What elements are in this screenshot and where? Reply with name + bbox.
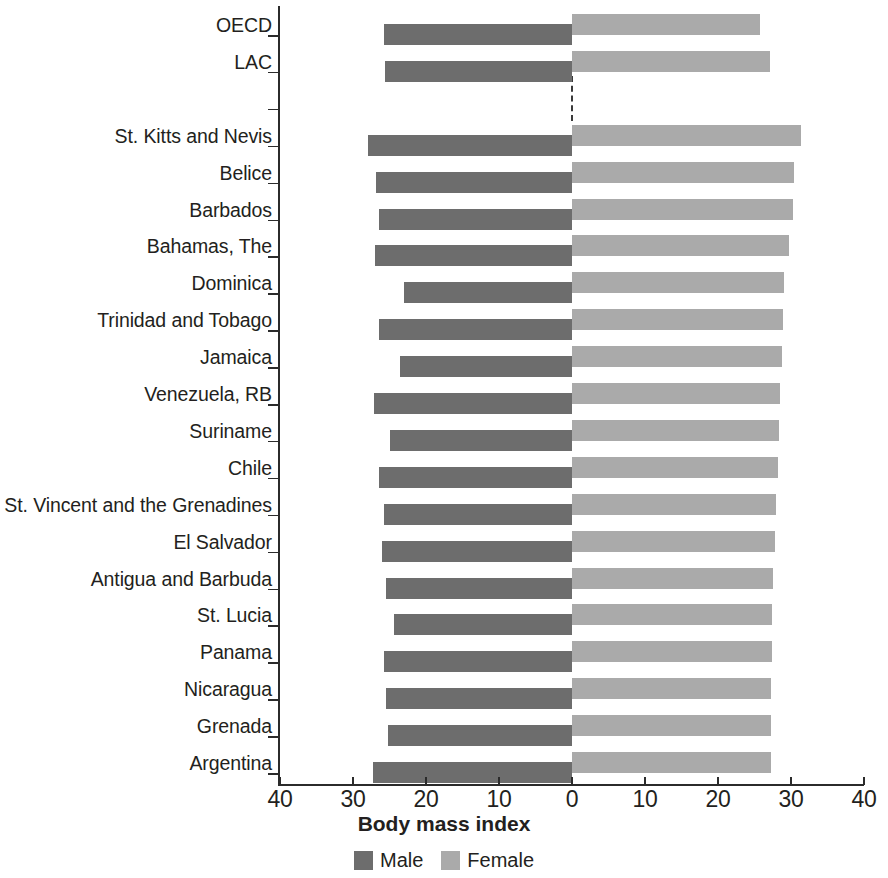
legend-swatch-icon — [441, 851, 460, 870]
category-label: Bahamas, The — [147, 235, 272, 257]
bar-male — [379, 209, 572, 230]
bar-female — [572, 420, 779, 441]
bar-male — [373, 762, 572, 783]
bar-male — [400, 356, 572, 377]
x-axis-title: Body mass index — [0, 812, 888, 836]
category-label: Antigua and Barbuda — [91, 568, 272, 590]
x-axis-tick-label: 40 — [250, 786, 310, 813]
x-axis-tick — [352, 777, 354, 785]
category-label: Trinidad and Tobago — [97, 309, 272, 331]
x-axis-tick — [425, 777, 427, 785]
bar-male — [379, 467, 572, 488]
legend-swatch-icon — [354, 851, 373, 870]
zero-reference-dashed-line — [571, 76, 573, 121]
legend-label: Female — [467, 849, 534, 872]
category-label: Venezuela, RB — [144, 383, 272, 405]
bar-female — [572, 604, 772, 625]
bar-female — [572, 715, 771, 736]
bar-female — [572, 752, 771, 773]
category-label: Suriname — [189, 420, 272, 442]
bar-male — [386, 578, 572, 599]
category-label: Barbados — [189, 199, 272, 221]
x-axis-tick-label: 0 — [542, 786, 602, 813]
legend-item[interactable]: Male — [354, 849, 423, 872]
x-axis-tick-label: 30 — [761, 786, 821, 813]
bar-female — [572, 568, 773, 589]
category-label: St. Vincent and the Grenadines — [4, 494, 272, 516]
bar-female — [572, 383, 780, 404]
bar-male — [384, 24, 572, 45]
category-label: Argentina — [189, 752, 272, 774]
bar-male — [384, 504, 572, 525]
category-label: Dominica — [192, 272, 272, 294]
y-axis-line — [278, 6, 280, 785]
bar-male — [404, 282, 572, 303]
bar-female — [572, 457, 778, 478]
x-axis-tick-label: 30 — [323, 786, 383, 813]
category-label: Belice — [219, 162, 272, 184]
bar-female — [572, 125, 801, 146]
category-label: Panama — [200, 641, 272, 663]
bar-male — [375, 245, 572, 266]
bar-female — [572, 199, 793, 220]
bar-female — [572, 235, 789, 256]
x-axis-tick-label: 40 — [834, 786, 888, 813]
x-axis-tick — [279, 777, 281, 785]
x-axis-tick-label: 20 — [688, 786, 748, 813]
x-axis-tick — [863, 777, 865, 785]
x-axis-tick — [644, 777, 646, 785]
x-axis-tick — [571, 777, 573, 785]
bar-male — [368, 135, 572, 156]
x-axis-tick-label: 10 — [615, 786, 675, 813]
category-label: Grenada — [197, 715, 272, 737]
bar-female — [572, 51, 770, 72]
bar-male — [388, 725, 572, 746]
category-label: Chile — [228, 457, 272, 479]
bar-male — [376, 172, 572, 193]
x-axis-tick — [498, 777, 500, 785]
bmi-butterfly-chart: OECDLACSt. Kitts and NevisBeliceBarbados… — [0, 0, 888, 878]
bar-male — [394, 614, 572, 635]
x-axis-tick-label: 20 — [396, 786, 456, 813]
bar-male — [384, 651, 572, 672]
x-axis-tick — [790, 777, 792, 785]
legend-label: Male — [380, 849, 423, 872]
category-label: St. Kitts and Nevis — [115, 125, 272, 147]
bar-male — [382, 541, 572, 562]
bar-female — [572, 346, 782, 367]
x-axis-tick — [717, 777, 719, 785]
chart-legend: MaleFemale — [0, 849, 888, 872]
category-label: LAC — [234, 51, 272, 73]
bar-male — [374, 393, 572, 414]
bar-female — [572, 678, 771, 699]
bar-male — [385, 61, 572, 82]
bar-female — [572, 309, 783, 330]
category-label: St. Lucia — [197, 604, 272, 626]
bar-female — [572, 531, 775, 552]
bar-male — [379, 319, 572, 340]
bar-female — [572, 641, 772, 662]
legend-item[interactable]: Female — [441, 849, 534, 872]
bar-female — [572, 272, 784, 293]
category-label: El Salvador — [173, 531, 272, 553]
x-axis-tick-label: 10 — [469, 786, 529, 813]
category-label: Nicaragua — [184, 678, 272, 700]
bar-male — [390, 430, 573, 451]
bar-female — [572, 14, 760, 35]
bar-female — [572, 494, 776, 515]
category-label: Jamaica — [200, 346, 272, 368]
y-axis-tick — [268, 109, 278, 111]
bar-female — [572, 162, 794, 183]
category-label: OECD — [216, 14, 272, 36]
plot-area: OECDLACSt. Kitts and NevisBeliceBarbados… — [0, 0, 888, 790]
bar-male — [386, 688, 572, 709]
